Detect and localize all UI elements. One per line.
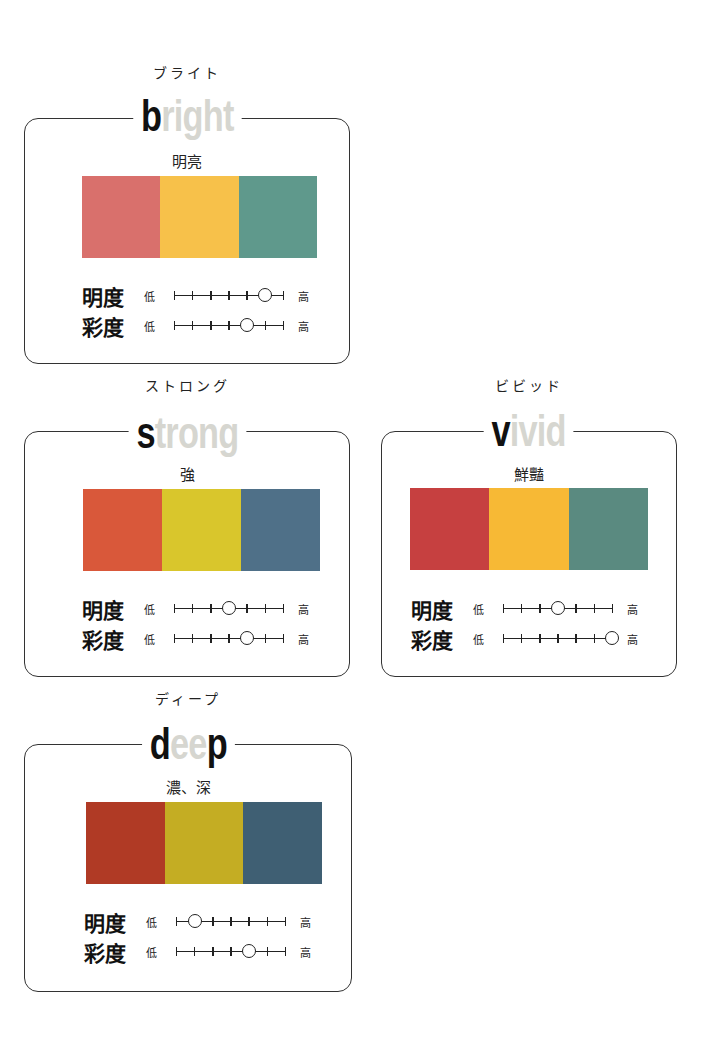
title-initial: d [149,719,169,768]
scale-tick [176,947,177,956]
brightness-scale [503,599,613,619]
saturation-label: 彩度 [84,937,146,967]
subtitle: 明亮 [24,150,350,171]
card-strong: ストロング strong 強 明度 低 高 彩度 低 高 [24,375,350,677]
title-rest: right [161,91,233,140]
scale-tick [174,291,175,300]
scale-knob-circle [242,944,256,958]
scale-tick [228,634,229,643]
saturation-meter: 彩度 低 高 [411,627,638,651]
swatch-red [410,488,489,570]
color-swatches [82,176,317,258]
title-rest: trong [154,408,238,457]
scale-tick [265,604,266,613]
scale-tick [228,321,229,330]
scale-tick [539,604,540,613]
high-label: 高 [300,914,311,930]
scale-tick [503,634,504,643]
low-label: 低 [473,601,503,617]
scale-tick [557,634,558,643]
brightness-meter: 明度 低 高 [82,597,309,621]
low-label: 低 [144,631,174,647]
saturation-meter: 彩度 低 高 [82,627,309,651]
high-label: 高 [298,631,309,647]
scale-tick [192,291,193,300]
scale-tick [212,947,213,956]
scale-knob-circle [551,601,565,615]
color-swatches [83,489,320,571]
title: bright [24,94,350,138]
scale-tick [283,321,284,330]
low-label: 低 [144,318,174,334]
card-bright: ブライト bright 明亮 明度 低 高 彩度 低 高 [24,62,350,364]
card-deep: ディープ deep 濃、深 明度 低 高 彩度 低 高 [24,688,352,992]
scale-tick [521,604,522,613]
scale-tick [594,634,595,643]
title-rest: ee [170,719,207,768]
brightness-label: 明度 [84,907,146,937]
low-label: 低 [144,601,174,617]
saturation-scale [176,942,286,962]
title: strong [24,411,350,455]
swatch-red [86,802,165,884]
swatch-yellow [160,176,238,258]
saturation-scale [174,629,284,649]
saturation-meter: 彩度 低 高 [84,940,311,964]
scale-tick [248,917,249,926]
kana-label: ビビッド [381,375,677,395]
scale-tick [594,604,595,613]
saturation-scale [174,316,284,336]
scale-tick [265,634,266,643]
scale-tick [194,947,195,956]
scale-tick [246,291,247,300]
swatch-red [83,489,162,571]
low-label: 低 [146,914,176,930]
high-label: 高 [627,631,638,647]
scale-tick [210,321,211,330]
kana-label: ブライト [24,62,350,82]
color-swatches [410,488,648,570]
low-label: 低 [144,288,174,304]
card-vivid: ビビッド vivid 鮮豔 明度 低 高 彩度 低 高 [381,375,677,677]
title-rest: ivid [510,406,566,455]
title-initial: b [141,91,161,140]
swatch-red [82,176,160,258]
scale-tick [176,917,177,926]
scale-tick [210,604,211,613]
swatch-yellow [489,488,568,570]
scale-tick [246,604,247,613]
kana-label: ストロング [24,375,350,395]
high-label: 高 [298,318,309,334]
scale-tick [212,917,213,926]
title: deep [24,722,352,766]
scale-tick [503,604,504,613]
swatch-blue [241,489,320,571]
high-label: 高 [298,601,309,617]
brightness-scale [174,286,284,306]
scale-tick [575,604,576,613]
scale-tick [539,634,540,643]
subtitle: 鮮豔 [381,463,677,484]
scale-knob-circle [240,318,254,332]
swatch-yellow [165,802,244,884]
high-label: 高 [627,601,638,617]
title-initial: s [136,408,154,457]
scale-knob-circle [258,288,272,302]
scale-tick [174,604,175,613]
kana-label: ディープ [24,688,352,708]
scale-tick [174,321,175,330]
title-initial: v [492,406,510,455]
high-label: 高 [298,288,309,304]
scale-tick [285,917,286,926]
scale-tick [267,947,268,956]
scale-tick [210,291,211,300]
scale-tick [267,917,268,926]
saturation-meter: 彩度 低 高 [82,314,309,338]
scale-tick [612,604,613,613]
scale-tick [210,634,211,643]
scale-tick [192,321,193,330]
scale-tick [230,917,231,926]
scale-knob-circle [605,631,619,645]
scale-tick [283,604,284,613]
brightness-label: 明度 [82,281,144,311]
